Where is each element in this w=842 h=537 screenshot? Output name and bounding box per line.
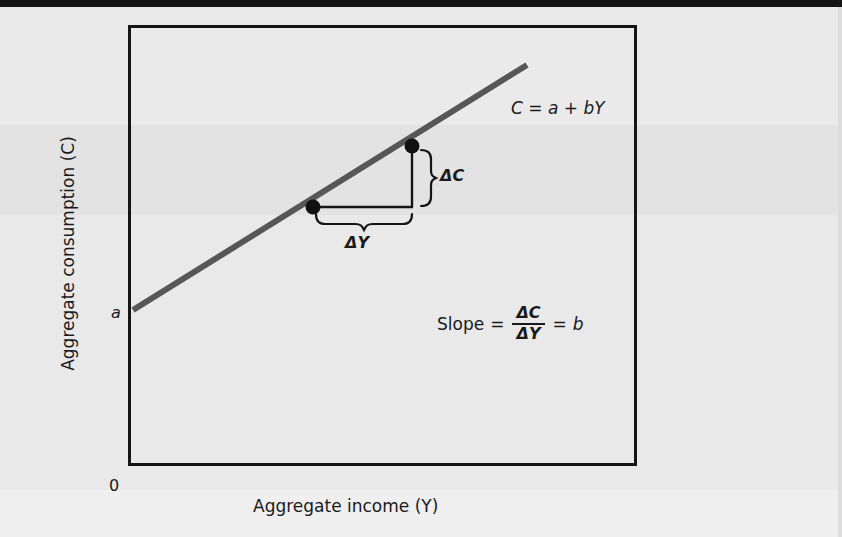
x-axis-label-text: Aggregate income (Y) (253, 496, 438, 516)
slope-equals-sign-2: = (553, 314, 567, 334)
origin-label: 0 (109, 478, 119, 494)
slope-numerator: ΔC (512, 305, 544, 325)
slope-fraction: ΔC ΔY (512, 305, 544, 343)
delta-c-label: ΔC (440, 168, 464, 184)
delta-c-brace (421, 150, 436, 206)
delta-y-label: ΔY (345, 235, 369, 251)
equation-plus: + (564, 98, 578, 118)
consumption-function-line (133, 65, 527, 310)
delta-c-text: ΔC (440, 166, 464, 185)
slope-equals-sign: = (490, 314, 504, 334)
data-point-upper (405, 139, 420, 154)
y-intercept-label: a (111, 305, 121, 321)
equation-lhs: C (511, 98, 523, 118)
slope-word: Slope (437, 314, 484, 334)
equation-slope-term: bY (583, 98, 604, 118)
chart-graphics (0, 0, 842, 537)
delta-y-text: ΔY (345, 233, 369, 252)
data-point-lower (306, 200, 321, 215)
slope-formula: Slope = ΔC ΔY = b (437, 305, 584, 343)
slope-value: b (573, 314, 584, 334)
equation-equals: = (528, 98, 542, 118)
y-axis-label: Aggregate consumption (C) (60, 124, 77, 384)
x-axis-label: Aggregate income (Y) (253, 498, 438, 515)
consumption-equation-label: C = a + bY (511, 100, 605, 117)
slope-denominator: ΔY (513, 325, 545, 343)
equation-intercept: a (548, 98, 558, 118)
figure-page: Aggregate consumption (C) Aggregate inco… (0, 0, 842, 537)
delta-y-brace (316, 214, 412, 230)
